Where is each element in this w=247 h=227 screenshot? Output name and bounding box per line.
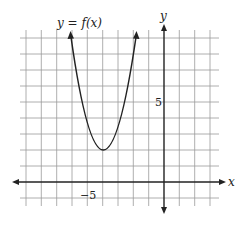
y-axis — [161, 24, 167, 214]
graph: y = f(x) x y −5 5 — [0, 0, 247, 227]
curve-right-arrow-icon — [133, 31, 140, 39]
y-tick-label: 5 — [155, 96, 162, 109]
y-axis-up-arrow-icon — [161, 24, 167, 31]
x-axis-label: x — [228, 175, 235, 189]
grid — [20, 30, 219, 206]
x-tick-label: −5 — [80, 189, 96, 202]
y-axis-label: y — [159, 9, 167, 23]
curve-label: y = f(x) — [56, 16, 102, 30]
curve — [68, 31, 140, 150]
curve-left-arrow-icon — [68, 31, 75, 39]
y-axis-down-arrow-icon — [161, 207, 167, 214]
x-axis-right-arrow-icon — [219, 179, 226, 185]
x-axis — [12, 179, 226, 185]
x-axis-left-arrow-icon — [12, 179, 19, 185]
